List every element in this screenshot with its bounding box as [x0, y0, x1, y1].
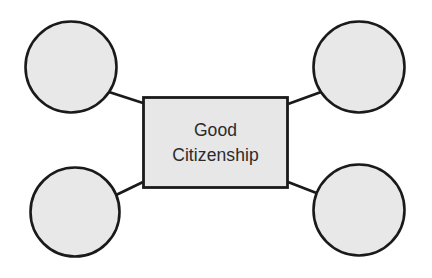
diagram-graphics: [0, 0, 432, 278]
connector-top-left: [109, 92, 143, 103]
node-circle-top-left[interactable]: [26, 22, 117, 113]
node-circle-top-right[interactable]: [314, 22, 405, 113]
connector-bottom-left: [114, 182, 143, 196]
diagram-canvas: Good Citizenship: [0, 0, 432, 278]
node-circle-bottom-left[interactable]: [31, 168, 120, 257]
connector-top-right: [288, 92, 321, 104]
center-concept-box[interactable]: [144, 98, 288, 188]
node-circle-bottom-right[interactable]: [314, 165, 405, 256]
connector-bottom-right: [288, 182, 319, 194]
